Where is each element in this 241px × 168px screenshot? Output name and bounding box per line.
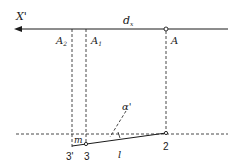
label-dx: dx [123,14,134,27]
angle-arc [118,132,120,138]
point-A-marker [164,27,168,31]
label-A2: A2 [55,35,67,47]
arrow-left-icon [14,26,22,32]
point-2-marker [164,131,167,134]
label-x-axis: X' [15,10,27,23]
label-3-prime: 3' [66,151,74,162]
label-l: l [118,149,121,160]
projection-diagram: X' dx A2 A1 A α' m 3' 3 l 2 [0,0,241,168]
label-2: 2 [163,141,169,152]
label-A: A [170,35,178,46]
point-3-marker [84,142,87,145]
label-A1: A1 [90,35,102,47]
label-alpha: α' [122,101,132,112]
label-3: 3 [84,151,90,162]
label-m: m [74,135,83,145]
